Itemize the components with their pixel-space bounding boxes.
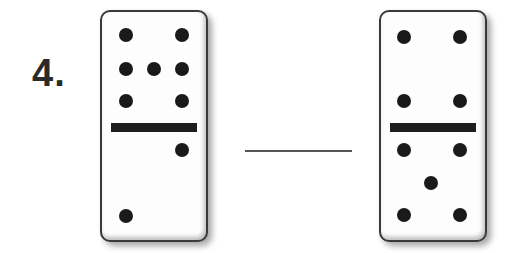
pip-top xyxy=(119,28,133,42)
pip-bottom xyxy=(397,208,411,222)
pip-bottom xyxy=(397,143,411,157)
pip-top xyxy=(175,94,189,108)
pip-top xyxy=(453,94,467,108)
pip-top xyxy=(175,62,189,76)
pip-top xyxy=(453,30,467,44)
problem-number: 4. xyxy=(32,52,66,95)
domino-divider xyxy=(390,123,476,132)
answer-blank-line[interactable] xyxy=(245,150,352,152)
pip-top xyxy=(147,62,161,76)
pip-bottom xyxy=(175,143,189,157)
domino-left xyxy=(100,10,208,242)
domino-right xyxy=(379,10,487,242)
domino-divider xyxy=(111,123,197,132)
pip-top xyxy=(119,62,133,76)
pip-bottom xyxy=(119,209,133,223)
pip-bottom xyxy=(453,143,467,157)
pip-top xyxy=(175,28,189,42)
pip-top xyxy=(119,94,133,108)
pip-bottom xyxy=(453,208,467,222)
pip-top xyxy=(397,30,411,44)
pip-bottom xyxy=(424,176,438,190)
pip-top xyxy=(397,94,411,108)
